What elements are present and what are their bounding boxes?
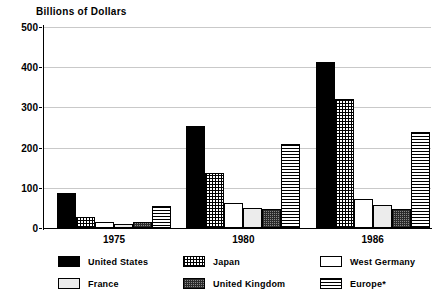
bar (335, 99, 354, 228)
bar (354, 199, 373, 228)
x-tick-label-1980: 1980 (232, 234, 254, 245)
y-tick-mark-0 (39, 228, 42, 229)
gridline-200 (43, 148, 431, 149)
bar (281, 144, 300, 228)
y-tick-mark-500 (39, 27, 42, 28)
bar-chart: Billions of Dollars 0100200300400500 197… (0, 0, 440, 307)
bar (152, 206, 171, 228)
legend-label: Japan (213, 257, 240, 267)
bar (411, 132, 430, 228)
gridline-300 (43, 107, 431, 108)
y-tick-label-100: 100 (21, 182, 38, 193)
legend-swatch-icon (320, 278, 342, 289)
y-tick-label-300: 300 (21, 102, 38, 113)
chart-title: Billions of Dollars (36, 6, 127, 17)
bar (392, 209, 411, 228)
bar (243, 208, 262, 228)
bar (186, 126, 205, 229)
x-axis-line (43, 228, 432, 229)
legend-swatch-icon (183, 278, 205, 289)
legend-label: France (88, 279, 119, 289)
y-tick-mark-100 (39, 188, 42, 189)
x-tick-label-1975: 1975 (103, 234, 125, 245)
legend-item: France (58, 278, 119, 289)
y-tick-label-500: 500 (21, 22, 38, 33)
legend-item: United Kingdom (183, 278, 285, 289)
legend-item: Japan (183, 256, 240, 267)
bar (57, 193, 76, 228)
y-tick-mark-300 (39, 107, 42, 108)
bar (205, 173, 224, 228)
bar (262, 209, 281, 228)
y-axis-line (43, 25, 44, 230)
gridline-400 (43, 67, 431, 68)
legend-swatch-icon (58, 256, 80, 267)
legend-label: United Kingdom (213, 279, 285, 289)
bar (373, 205, 392, 228)
gridline-500 (43, 27, 431, 28)
bar (316, 62, 335, 228)
y-tick-label-400: 400 (21, 62, 38, 73)
y-tick-mark-400 (39, 67, 42, 68)
y-axis-tick-labels: 0100200300400500 (0, 27, 38, 228)
bar (224, 203, 243, 228)
x-tick-label-1986: 1986 (362, 234, 384, 245)
legend-item: United States (58, 256, 148, 267)
chart-legend: United StatesJapanWest GermanyFranceUnit… (58, 256, 433, 302)
legend-swatch-icon (58, 278, 80, 289)
y-tick-mark-200 (39, 148, 42, 149)
legend-label: Europe* (350, 279, 386, 289)
legend-label: United States (88, 257, 148, 267)
y-tick-label-0: 0 (32, 223, 38, 234)
legend-swatch-icon (183, 256, 205, 267)
legend-item: West Germany (320, 256, 415, 267)
legend-item: Europe* (320, 278, 386, 289)
plot-area (43, 27, 431, 228)
legend-label: West Germany (350, 257, 415, 267)
gridline-100 (43, 188, 431, 189)
y-tick-label-200: 200 (21, 142, 38, 153)
bar (76, 217, 95, 228)
legend-swatch-icon (320, 256, 342, 267)
